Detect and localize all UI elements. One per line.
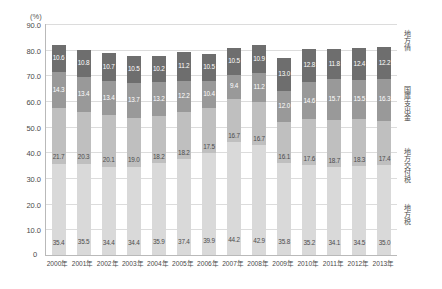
- bar-value-label: 17.4: [379, 156, 391, 162]
- bar-value-label: 15.7: [328, 96, 340, 102]
- bar-group[interactable]: 34.420.113.410.7: [102, 53, 116, 255]
- bar-segment[interactable]: 13.4: [102, 81, 116, 115]
- x-axis-tick-label: 2007年: [222, 258, 244, 268]
- bar-segment[interactable]: 11.2: [252, 73, 266, 102]
- bar-segment[interactable]: 35.9: [152, 163, 166, 255]
- bar-segment[interactable]: 11.2: [177, 52, 191, 81]
- bar-segment[interactable]: 39.9: [202, 153, 216, 255]
- bar-value-label: 14.3: [53, 87, 65, 93]
- bar-segment[interactable]: 10.5: [202, 54, 216, 81]
- bar-segment[interactable]: 10.4: [202, 81, 216, 108]
- bar-segment[interactable]: 14.6: [302, 82, 316, 119]
- bar-segment[interactable]: 17.4: [377, 121, 391, 166]
- bar-segment[interactable]: 12.0: [277, 91, 291, 122]
- bar-segment[interactable]: 34.4: [102, 167, 116, 255]
- bar-value-label: 9.4: [230, 83, 238, 89]
- bar-segment[interactable]: 16.3: [377, 79, 391, 121]
- bar-segment[interactable]: 20.1: [102, 115, 116, 167]
- bar-value-label: 10.5: [228, 58, 240, 64]
- bar-value-label: 17.6: [303, 156, 315, 162]
- legend-item-0: 地方税: [404, 204, 411, 225]
- bar-group[interactable]: 34.518.315.512.4: [352, 48, 366, 255]
- y-axis-tick-label: 20.0: [26, 200, 46, 209]
- bar-segment[interactable]: 17.6: [302, 119, 316, 164]
- bar-group[interactable]: 35.520.313.410.8: [77, 50, 91, 255]
- bar-segment[interactable]: 16.7: [252, 102, 266, 145]
- legend-item-2: 国庫支出金: [404, 86, 411, 121]
- bar-group[interactable]: 35.918.213.210.2: [152, 56, 166, 255]
- bar-segment[interactable]: 42.9: [252, 145, 266, 255]
- bar-group[interactable]: 44.216.79.410.5: [227, 48, 241, 255]
- bar-group[interactable]: 35.816.112.013.0: [277, 58, 291, 255]
- bar-segment[interactable]: 17.5: [202, 108, 216, 153]
- bar-value-label: 10.2: [153, 66, 165, 72]
- x-axis-tick-label: 2012年: [348, 258, 370, 268]
- bar-segment[interactable]: 12.2: [177, 81, 191, 112]
- bar-group[interactable]: 34.419.013.710.5: [127, 56, 141, 255]
- x-axis-tick-label: 2001年: [72, 258, 94, 268]
- x-axis-tick-label: 2004年: [147, 258, 169, 268]
- bar-segment[interactable]: 12.2: [377, 47, 391, 78]
- bar-value-label: 16.7: [228, 133, 240, 139]
- bar-segment[interactable]: 16.7: [227, 99, 241, 142]
- bar-segment[interactable]: 12.8: [302, 49, 316, 82]
- bar-segment[interactable]: 11.8: [327, 49, 341, 79]
- bar-segment[interactable]: 13.2: [152, 82, 166, 116]
- bar-segment[interactable]: 34.5: [352, 166, 366, 255]
- bar-segment[interactable]: 9.4: [227, 75, 241, 99]
- bar-group[interactable]: 34.118.715.711.8: [327, 49, 341, 255]
- bar-segment[interactable]: 16.1: [277, 122, 291, 163]
- bar-segment[interactable]: 14.3: [52, 72, 66, 109]
- bar-segment[interactable]: 10.7: [102, 53, 116, 80]
- bar-segment[interactable]: 21.7: [52, 108, 66, 164]
- bar-segment[interactable]: 37.4: [177, 159, 191, 255]
- bar-segment[interactable]: 18.3: [352, 119, 366, 166]
- bar-segment[interactable]: 10.9: [252, 45, 266, 73]
- bar-group[interactable]: 35.217.614.612.8: [302, 49, 316, 255]
- bar-segment[interactable]: 18.7: [327, 120, 341, 168]
- bar-segment[interactable]: 10.5: [127, 56, 141, 83]
- bar-segment[interactable]: 13.0: [277, 58, 291, 91]
- bar-group[interactable]: 42.916.711.210.9: [252, 45, 266, 255]
- bar-segment[interactable]: 13.4: [77, 77, 91, 111]
- bar-group[interactable]: 39.917.510.410.5: [202, 54, 216, 255]
- y-axis-tick-label: 80.0: [26, 46, 46, 55]
- bar-segment[interactable]: 35.0: [377, 165, 391, 255]
- bar-segment[interactable]: 35.4: [52, 164, 66, 255]
- bar-segment[interactable]: 15.7: [327, 79, 341, 119]
- bar-value-label: 34.1: [328, 240, 340, 246]
- bar-segment[interactable]: 18.2: [152, 116, 166, 163]
- bar-segment[interactable]: 34.1: [327, 167, 341, 255]
- bar-value-label: 20.3: [78, 154, 90, 160]
- bar-segment[interactable]: 35.2: [302, 165, 316, 255]
- bar-series-container: 35.421.714.310.635.520.313.410.834.420.1…: [46, 24, 397, 255]
- bar-segment[interactable]: 10.8: [77, 50, 91, 78]
- bar-segment[interactable]: 18.2: [177, 112, 191, 159]
- bar-group[interactable]: 35.017.416.312.2: [377, 47, 391, 255]
- bar-segment[interactable]: 12.4: [352, 48, 366, 80]
- x-axis-tick-label: 2003年: [122, 258, 144, 268]
- x-axis-tick-label: 2000年: [47, 258, 69, 268]
- bar-segment[interactable]: 35.5: [77, 164, 91, 255]
- y-axis-tick-label: 60.0: [26, 98, 46, 107]
- bar-segment[interactable]: 19.0: [127, 118, 141, 167]
- bar-segment[interactable]: 15.5: [352, 80, 366, 120]
- bar-value-label: 39.9: [203, 238, 215, 244]
- bar-value-label: 35.4: [53, 240, 65, 246]
- bar-value-label: 12.2: [379, 60, 391, 66]
- bar-segment[interactable]: 35.8: [277, 163, 291, 255]
- bar-value-label: 44.2: [228, 237, 240, 243]
- bar-segment[interactable]: 34.4: [127, 167, 141, 255]
- bar-value-label: 34.5: [354, 240, 366, 246]
- bar-segment[interactable]: 13.7: [127, 83, 141, 118]
- bar-segment[interactable]: 10.5: [227, 48, 241, 75]
- bar-segment[interactable]: 20.3: [77, 112, 91, 164]
- bar-segment[interactable]: 10.2: [152, 56, 166, 82]
- bar-value-label: 34.4: [103, 240, 115, 246]
- x-axis-tick-label: 2005年: [172, 258, 194, 268]
- bar-segment[interactable]: 44.2: [227, 142, 241, 255]
- bar-value-label: 19.0: [128, 157, 140, 163]
- bar-group[interactable]: 37.418.212.211.2: [177, 52, 191, 255]
- bar-group[interactable]: 35.421.714.310.6: [52, 45, 66, 255]
- bar-segment[interactable]: 10.6: [52, 45, 66, 72]
